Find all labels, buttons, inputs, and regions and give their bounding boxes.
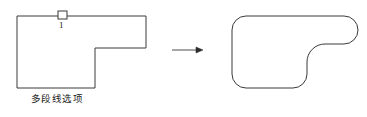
filleted-polyline[interactable] <box>232 16 358 88</box>
arrow-right-icon <box>172 47 203 53</box>
figure-container: 1 多段线选项 <box>0 0 367 117</box>
vertex-number-label: 1 <box>59 21 64 30</box>
grip-square-icon[interactable] <box>58 11 67 19</box>
polyline-options-caption: 多段线选项 <box>31 94 83 104</box>
l-shaped-polyline[interactable] <box>17 16 146 88</box>
arrow-head <box>196 47 203 53</box>
